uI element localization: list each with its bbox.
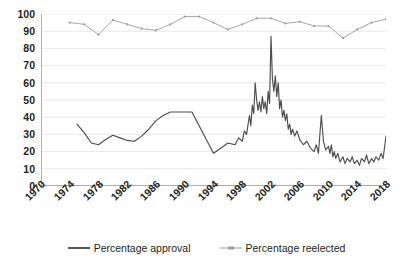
x-axis-tick-label: 1982: [109, 178, 133, 202]
x-axis-tick-label: 2002: [253, 178, 277, 202]
legend-swatch-line-marker-icon: [219, 243, 243, 253]
x-axis-tick-label: 1994: [196, 178, 220, 202]
legend-item-percentage-reelected: Percentage reelected: [219, 243, 346, 254]
x-axis-tick-label: 1970: [23, 178, 47, 202]
x-axis-tick-label: 2006: [282, 178, 306, 202]
legend-label: Percentage approval: [94, 243, 191, 254]
x-axis-tick-label: 2014: [339, 178, 363, 202]
chart-container: 0102030405060708090100 19701974197819821…: [0, 0, 412, 269]
x-axis-tick-label: 2018: [368, 178, 392, 202]
legend-label: Percentage reelected: [246, 243, 346, 254]
x-axis-tick-label: 1978: [81, 178, 105, 202]
chart-legend: Percentage approval Percentage reelected: [0, 243, 412, 254]
x-axis-tick-label: 1986: [138, 178, 162, 202]
legend-item-percentage-approval: Percentage approval: [67, 243, 191, 254]
x-axis-tick-label: 1998: [224, 178, 248, 202]
x-axis-tick-labels: 1970197419781982198619901994199820022006…: [0, 0, 412, 269]
x-axis-tick-label: 1990: [167, 178, 191, 202]
x-axis-tick-label: 1974: [52, 178, 76, 202]
x-axis-tick-label: 2010: [311, 178, 335, 202]
legend-swatch-line-icon: [67, 243, 91, 253]
